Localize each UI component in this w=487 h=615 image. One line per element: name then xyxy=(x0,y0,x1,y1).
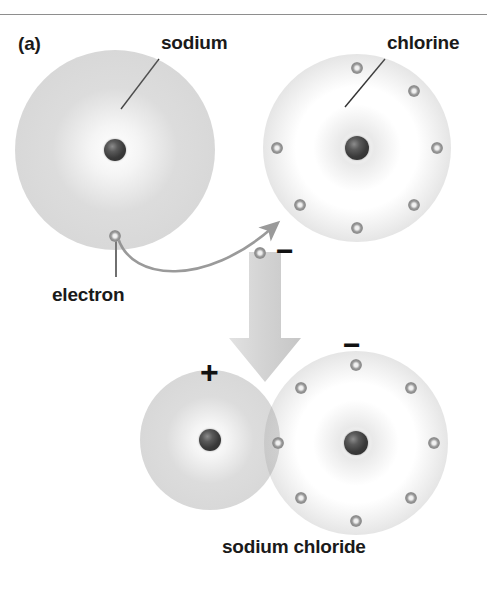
label-electron: electron xyxy=(52,285,124,304)
ionic-bonding-diagram: (a) sodium chlorine electron sodium chlo… xyxy=(0,0,487,615)
transferred-electron xyxy=(254,247,266,259)
transferred-electron-charge-sign: − xyxy=(276,236,294,266)
chloride-ion-electron-2 xyxy=(405,382,417,394)
chloride-ion-electron-8 xyxy=(295,382,307,394)
label-chlorine: chlorine xyxy=(387,33,459,52)
chloride-ion-electron-7 xyxy=(272,437,284,449)
label-sodium-chloride: sodium chloride xyxy=(222,537,366,556)
chloride-ion-electron-6 xyxy=(295,492,307,504)
label-sodium: sodium xyxy=(161,33,227,52)
chloride-ion-electron-5 xyxy=(350,515,362,527)
sodium-ion-charge-sign: + xyxy=(200,356,219,388)
chloride-ion-charge-sign: − xyxy=(343,330,361,360)
panel-label: (a) xyxy=(18,34,41,53)
chloride-ion-nucleus xyxy=(344,431,368,455)
chloride-ion-electron-3 xyxy=(428,437,440,449)
atom-chloride-ion xyxy=(0,0,487,615)
